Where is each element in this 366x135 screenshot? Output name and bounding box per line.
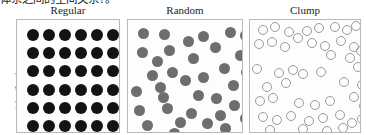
data-point (27, 47, 39, 59)
data-point (357, 114, 361, 124)
data-point (43, 102, 55, 114)
panel-random (127, 19, 243, 133)
data-point (43, 29, 55, 41)
data-point (27, 120, 39, 132)
data-point (356, 46, 361, 56)
data-point (75, 84, 87, 96)
data-point (270, 22, 280, 32)
data-point (349, 92, 359, 102)
data-point (158, 92, 169, 103)
data-point (43, 84, 55, 96)
data-point (198, 72, 209, 83)
data-point (137, 47, 148, 58)
data-point (326, 50, 336, 60)
data-point (43, 65, 55, 77)
data-point (262, 82, 272, 92)
data-point (314, 23, 324, 33)
data-point (27, 29, 39, 41)
data-point (134, 105, 145, 116)
data-point (162, 103, 173, 114)
data-point (27, 65, 39, 77)
data-point (318, 113, 328, 123)
data-point (268, 93, 278, 103)
data-point (310, 100, 320, 110)
column-header-clump: Clump (249, 4, 361, 17)
data-point (258, 112, 268, 122)
data-point (339, 77, 349, 87)
data-point (202, 118, 213, 129)
data-point (91, 84, 103, 96)
data-point (307, 38, 317, 48)
data-point (27, 102, 39, 114)
data-point (357, 80, 361, 90)
data-point (75, 47, 87, 59)
data-point (335, 110, 345, 120)
panel-regular (16, 19, 120, 133)
data-point (210, 42, 221, 53)
data-point (286, 111, 296, 121)
data-point (91, 102, 103, 114)
data-point (180, 75, 191, 86)
data-point (302, 26, 312, 36)
data-point (167, 67, 178, 78)
data-point (255, 96, 265, 106)
data-point (272, 115, 282, 125)
data-point (43, 120, 55, 132)
data-point (265, 125, 275, 133)
data-point (59, 84, 71, 96)
data-point (188, 53, 199, 64)
data-point (240, 113, 243, 124)
data-point (298, 69, 308, 79)
data-point (138, 28, 149, 39)
data-point (59, 29, 71, 41)
data-point (75, 102, 87, 114)
data-point (75, 65, 87, 77)
figure-distribution-patterns: 体系之间的空间关系?。 Regular Random Clump Distrib… (0, 0, 366, 135)
data-point (131, 86, 142, 97)
data-point (288, 65, 298, 75)
data-point (164, 45, 175, 56)
data-point (43, 47, 55, 59)
data-point (91, 29, 103, 41)
data-point (293, 33, 303, 43)
data-point (336, 36, 346, 46)
data-point (198, 31, 209, 42)
data-point (152, 56, 163, 67)
data-point (225, 27, 236, 38)
data-point (142, 120, 153, 131)
data-point (353, 62, 361, 72)
data-point (241, 67, 243, 78)
data-point (183, 36, 194, 47)
data-point (229, 100, 240, 111)
data-point (27, 84, 39, 96)
column-header-regular: Regular (16, 4, 120, 17)
data-point (186, 108, 197, 119)
data-point (252, 64, 262, 74)
data-point (322, 126, 332, 133)
data-point (107, 47, 119, 59)
data-point (240, 30, 243, 41)
data-point (325, 96, 335, 106)
column-header-random: Random (127, 4, 243, 17)
data-point (91, 47, 103, 59)
data-point (75, 29, 87, 41)
data-point (107, 84, 119, 96)
data-point (59, 47, 71, 59)
data-point (338, 123, 348, 133)
data-point (219, 63, 230, 74)
data-point (220, 123, 231, 133)
data-point (298, 124, 308, 133)
data-point (280, 42, 290, 52)
data-point (59, 102, 71, 114)
data-point (274, 68, 284, 78)
data-point (215, 110, 226, 121)
data-point (254, 39, 264, 49)
data-point (107, 102, 119, 114)
data-point (228, 80, 239, 91)
data-point (330, 22, 340, 32)
data-point (159, 29, 170, 40)
data-point (147, 70, 158, 81)
data-point (175, 117, 186, 128)
data-point (258, 25, 268, 35)
data-point (107, 120, 119, 132)
